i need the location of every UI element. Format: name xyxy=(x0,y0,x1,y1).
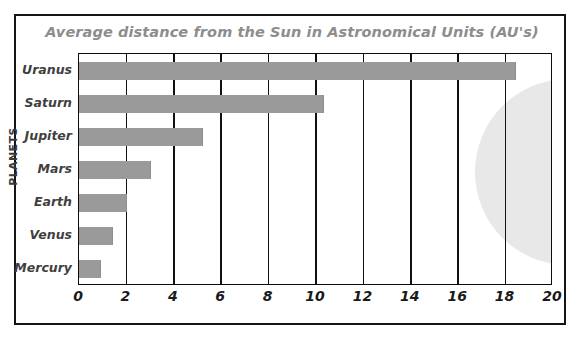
bar-uranus xyxy=(79,62,516,80)
bar-row xyxy=(79,87,324,120)
x-tick-6: 6 xyxy=(200,288,240,304)
bar-row xyxy=(79,54,516,87)
x-tick-20: 20 xyxy=(532,288,572,304)
x-tick-18: 18 xyxy=(485,288,525,304)
y-tick-mercury: Mercury xyxy=(0,260,72,275)
y-tick-mars: Mars xyxy=(0,161,72,176)
bar-mercury xyxy=(79,260,101,278)
y-tick-saturn: Saturn xyxy=(0,95,72,110)
bar-saturn xyxy=(79,95,324,113)
x-tick-0: 0 xyxy=(58,288,98,304)
bar-venus xyxy=(79,227,113,245)
bar-series xyxy=(79,54,551,284)
bar-row xyxy=(79,120,203,153)
x-tick-12: 12 xyxy=(342,288,382,304)
bar-mars xyxy=(79,161,151,179)
bar-earth xyxy=(79,194,127,212)
y-tick-venus: Venus xyxy=(0,227,72,242)
x-tick-14: 14 xyxy=(390,288,430,304)
bar-jupiter xyxy=(79,128,203,146)
bar-row xyxy=(79,153,151,186)
y-tick-earth: Earth xyxy=(0,194,72,209)
x-tick-2: 2 xyxy=(105,288,145,304)
bar-row xyxy=(79,220,113,253)
bar-row xyxy=(79,187,127,220)
x-tick-4: 4 xyxy=(153,288,193,304)
x-tick-16: 16 xyxy=(437,288,477,304)
bar-row xyxy=(79,253,101,285)
y-tick-jupiter: Jupiter xyxy=(0,128,72,143)
plot-area xyxy=(78,53,552,285)
x-tick-8: 8 xyxy=(248,288,288,304)
chart-title: Average distance from the Sun in Astrono… xyxy=(16,24,568,40)
y-tick-uranus: Uranus xyxy=(0,62,72,77)
x-tick-10: 10 xyxy=(295,288,335,304)
